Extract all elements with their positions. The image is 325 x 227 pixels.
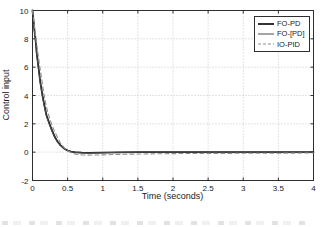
y-tick-label: 0 xyxy=(24,148,29,157)
legend-entry-fo-pd-: FO-[PD] xyxy=(258,29,305,38)
y-axis-label: Control input xyxy=(1,29,11,161)
legend-line-sample xyxy=(258,32,274,36)
legend-entry-fo-pd: FO-PD xyxy=(258,19,305,28)
y-tick-label: 8 xyxy=(24,35,29,44)
y-tick-label: 6 xyxy=(24,63,29,72)
legend-label: FO-[PD] xyxy=(277,29,305,38)
legend-line-sample xyxy=(258,42,274,46)
x-axis-label: Time (seconds) xyxy=(32,191,313,201)
legend-label: FO-PD xyxy=(277,19,300,28)
legend: FO-PDFO-[PD]IO-PID xyxy=(254,16,310,52)
y-tick-label: 2 xyxy=(24,120,29,129)
y-tick-label: 4 xyxy=(24,92,29,101)
legend-line-sample xyxy=(258,22,274,26)
figure: 00.511.522.533.54-20246810 Control input… xyxy=(0,0,325,227)
caption-text-sliver xyxy=(2,221,307,225)
y-tick-label: 10 xyxy=(20,7,29,16)
legend-entry-io-pid: IO-PID xyxy=(258,40,305,49)
legend-label: IO-PID xyxy=(277,40,300,49)
y-tick-label: -2 xyxy=(21,177,29,186)
